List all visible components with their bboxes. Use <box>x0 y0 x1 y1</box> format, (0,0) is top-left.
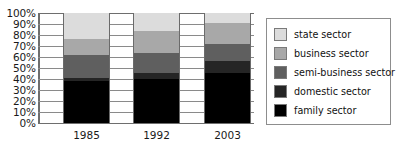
y-tick-30pct: 30% <box>13 85 36 96</box>
y-tick-10pct: 10% <box>13 107 36 118</box>
y-tick-0pct: 0% <box>20 118 36 129</box>
legend-label: semi-business sector <box>294 66 395 79</box>
x-label-1985: 1985 <box>52 128 122 142</box>
chart-legend: state sectorbusiness sectorsemi-business… <box>266 18 391 125</box>
y-tick-70pct: 70% <box>13 41 36 52</box>
legend-swatch-icon-business-sector <box>274 47 287 60</box>
bar-segment-1992-state-sector <box>134 13 179 31</box>
legend-item-domestic-sector[interactable]: domestic sector <box>267 82 390 101</box>
legend-label: business sector <box>294 47 369 60</box>
bar-segment-2003-semi-business-sector <box>205 44 250 62</box>
gridline-0pct <box>38 123 254 124</box>
bar-group <box>38 13 254 123</box>
bar-segment-2003-state-sector <box>205 13 250 23</box>
legend-label: family sector <box>294 104 356 117</box>
legend-swatch-icon-domestic-sector <box>274 85 287 98</box>
x-label-2003: 2003 <box>193 128 263 142</box>
legend-swatch-icon-semi-business-sector <box>274 66 287 79</box>
bar-segment-1985-business-sector <box>64 39 109 54</box>
legend-item-semi-business-sector[interactable]: semi-business sector <box>267 63 390 82</box>
y-tick-90pct: 90% <box>13 19 36 30</box>
y-tick-20pct: 20% <box>13 96 36 107</box>
y-tick-50pct: 50% <box>13 63 36 74</box>
x-label-1992: 1992 <box>122 128 192 142</box>
y-tick-60pct: 60% <box>13 52 36 63</box>
bar-2003 <box>204 13 251 123</box>
legend-swatch-icon-state-sector <box>274 28 287 41</box>
y-axis-tick-labels: 0%10%20%30%40%50%60%70%80%90%100% <box>0 8 36 128</box>
bar-segment-1985-semi-business-sector <box>64 55 109 78</box>
bar-segment-1985-family-sector <box>64 81 109 123</box>
bar-1992 <box>133 13 180 123</box>
x-axis-tick-labels: 198519922003 <box>38 128 254 144</box>
bar-segment-2003-domestic-sector <box>205 61 250 73</box>
legend-item-business-sector[interactable]: business sector <box>267 44 390 63</box>
y-tick-100pct: 100% <box>6 8 36 19</box>
bar-segment-1992-semi-business-sector <box>134 53 179 74</box>
legend-label: state sector <box>294 28 351 41</box>
legend-item-family-sector[interactable]: family sector <box>267 101 390 120</box>
y-tick-40pct: 40% <box>13 74 36 85</box>
bar-1985 <box>63 13 110 123</box>
legend-swatch-icon-family-sector <box>274 104 287 117</box>
stacked-bar-chart: 0%10%20%30%40%50%60%70%80%90%100% 198519… <box>0 0 397 162</box>
plot-area: 0%10%20%30%40%50%60%70%80%90%100% 198519… <box>0 0 258 162</box>
bar-segment-1992-business-sector <box>134 31 179 53</box>
bar-segment-1992-family-sector <box>134 79 179 123</box>
bar-segment-1985-state-sector <box>64 13 109 39</box>
bar-segment-2003-family-sector <box>205 73 250 123</box>
legend-item-state-sector[interactable]: state sector <box>267 25 390 44</box>
y-tick-80pct: 80% <box>13 30 36 41</box>
bar-segment-2003-business-sector <box>205 23 250 44</box>
legend-label: domestic sector <box>294 85 371 98</box>
